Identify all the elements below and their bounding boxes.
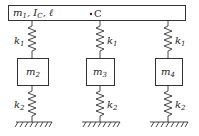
mass-spring-diagram: m1, IC, ℓ C k1 m2 k2 k1 m3 k2: [0, 0, 199, 136]
lower-spring-k2: [28, 86, 36, 122]
center-of-mass-dot: [90, 13, 92, 15]
upper-spring-k1: [28, 21, 36, 58]
lower-spring-k2: [164, 86, 172, 122]
lower-spring-label: k2: [14, 99, 25, 112]
upper-spring-k1: [96, 21, 104, 58]
upper-spring-label: k1: [14, 35, 25, 48]
ground-hatch: [82, 122, 120, 127]
lower-spring-k2: [96, 86, 104, 122]
ground-hatch: [150, 122, 188, 127]
lower-spring-label: k2: [107, 99, 118, 112]
upper-spring-label: k1: [107, 35, 118, 48]
upper-spring-label: k1: [175, 35, 186, 48]
ground-hatch: [15, 122, 52, 127]
lower-spring-label: k2: [175, 99, 186, 112]
column-2: k1 m3 k2: [82, 21, 120, 127]
column-1: k1 m2 k2: [14, 21, 52, 127]
column-3: k1 m4 k2: [150, 21, 188, 127]
center-of-mass-label: C: [94, 8, 102, 19]
upper-spring-k1: [164, 21, 172, 58]
